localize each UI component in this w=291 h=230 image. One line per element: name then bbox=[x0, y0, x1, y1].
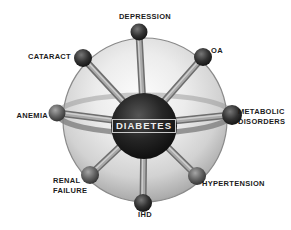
label-oa: OA bbox=[211, 46, 223, 56]
label-depression: DEPRESSION bbox=[119, 12, 171, 22]
label-hypertension: HYPERTENSION bbox=[202, 179, 265, 189]
label-cataract: CATARACT bbox=[28, 52, 71, 62]
label-metabolic-disorders: METABOLIC DISORDERS bbox=[238, 107, 285, 126]
diabetes-comorbidity-diagram: DEPRESSION OA METABOLIC DISORDERS HYPERT… bbox=[0, 0, 291, 230]
label-renal-failure: RENAL FAILURE bbox=[53, 176, 87, 195]
label-anemia: ANEMIA bbox=[17, 111, 48, 121]
hub-label: DIABETES bbox=[112, 119, 176, 133]
node-oa bbox=[194, 48, 212, 66]
label-ihd: IHD bbox=[138, 210, 152, 220]
node-cataract bbox=[74, 49, 92, 67]
node-anemia bbox=[49, 105, 66, 122]
node-depression bbox=[131, 24, 148, 41]
